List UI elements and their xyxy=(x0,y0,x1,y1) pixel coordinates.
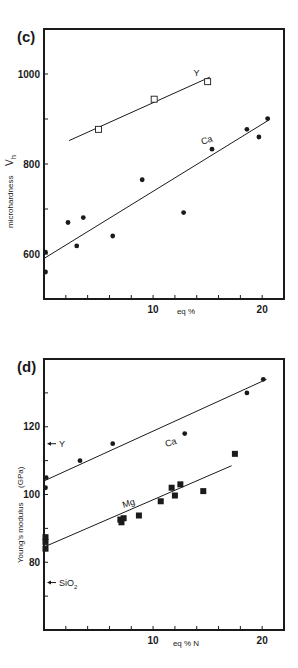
data-point-circle xyxy=(43,250,48,255)
data-point-filled-square xyxy=(43,539,49,545)
data-point-circle xyxy=(140,177,145,182)
y-axis-label-d: Young's modulus (GPa) xyxy=(16,466,25,563)
panel-label-c: (c) xyxy=(17,28,35,45)
data-point-circle xyxy=(257,135,262,140)
data-point-circle xyxy=(44,475,49,480)
data-point-filled-square xyxy=(177,481,183,487)
series-label-y: Y xyxy=(193,68,199,78)
y-axis-label-unit: (GPa) xyxy=(16,466,25,488)
ticks-c: 10206008001000 xyxy=(18,69,268,316)
data-point-circle xyxy=(43,270,48,275)
data-point-filled-square xyxy=(169,485,175,491)
ticks-d: 102080100120 xyxy=(23,393,268,646)
data-point-circle xyxy=(181,210,186,215)
plot-frame-c xyxy=(44,29,284,299)
data-point-circle xyxy=(74,244,79,249)
data-point-filled-square xyxy=(200,488,206,494)
reference-label: SiO2 xyxy=(59,578,78,590)
x-tick-label: 10 xyxy=(148,304,160,315)
panel-c-microhardness-chart: (c) 10206008001000 YCa eq % microhardnes… xyxy=(4,28,284,316)
data-point-circle xyxy=(110,234,115,239)
y-tick-label: 120 xyxy=(23,421,40,432)
data-point-circle xyxy=(81,215,86,220)
data-point-filled-square xyxy=(136,513,142,519)
data-point-circle xyxy=(245,390,250,395)
y-axis-label-c: microhardness V h xyxy=(4,155,17,228)
reference-label: Y xyxy=(59,439,65,449)
x-tick-label: 20 xyxy=(257,635,269,646)
data-point-filled-square xyxy=(121,515,127,521)
data-point-circle xyxy=(245,127,250,132)
series-label-ca: Ca xyxy=(200,133,214,146)
y-tick-label: 100 xyxy=(23,489,40,500)
fit-lines-d xyxy=(44,379,267,547)
x-axis-label-d: eq % N xyxy=(173,639,199,648)
y-tick-label: 800 xyxy=(23,159,40,170)
subscript: 2 xyxy=(74,584,78,590)
reference-arrows-d: YSiO2 xyxy=(47,439,78,590)
figure: (c) 10206008001000 YCa eq % microhardnes… xyxy=(0,0,298,668)
data-point-open-square xyxy=(96,126,102,132)
y-tick-label: 80 xyxy=(29,557,41,568)
y-axis-label-main: Young's modulus xyxy=(16,503,25,563)
y-tick-label: 600 xyxy=(23,249,40,260)
data-point-open-square xyxy=(151,96,157,102)
data-point-open-square xyxy=(205,79,211,85)
data-point-circle xyxy=(78,458,83,463)
series-labels-d: CaMg xyxy=(121,436,178,510)
y-axis-label-symbol: V xyxy=(4,159,15,166)
y-tick-label: 1000 xyxy=(18,69,41,80)
series-label-ca: Ca xyxy=(164,436,178,449)
y-axis-label-main: microhardness xyxy=(6,176,15,228)
data-point-circle xyxy=(110,441,115,446)
data-point-circle xyxy=(43,485,48,490)
panel-label-d: (d) xyxy=(17,358,36,375)
arrow-left-icon xyxy=(47,442,51,446)
panel-d-youngs-modulus-chart: (d) 102080100120 CaMg YSiO2 eq % N Young… xyxy=(16,358,284,648)
x-tick-label: 20 xyxy=(257,304,269,315)
x-axis-label-c: eq % xyxy=(177,307,195,316)
y-axis-label-sub: h xyxy=(10,155,17,159)
fit-line-y xyxy=(69,77,210,140)
data-points-d xyxy=(43,377,266,552)
fit-line-mg xyxy=(44,466,232,547)
data-point-filled-square xyxy=(43,546,49,552)
x-tick-label: 10 xyxy=(148,635,160,646)
fit-line-ca xyxy=(44,119,270,258)
data-points-c xyxy=(43,79,270,275)
data-point-circle xyxy=(182,431,187,436)
data-point-circle xyxy=(261,377,266,382)
data-point-filled-square xyxy=(232,451,238,457)
data-point-circle xyxy=(210,147,215,152)
data-point-filled-square xyxy=(172,493,178,499)
data-point-circle xyxy=(66,220,71,225)
data-point-filled-square xyxy=(158,498,164,504)
arrow-left-icon xyxy=(47,581,51,585)
fit-lines-c xyxy=(44,77,270,258)
data-point-circle xyxy=(265,116,270,121)
fit-line-ca xyxy=(44,379,267,481)
